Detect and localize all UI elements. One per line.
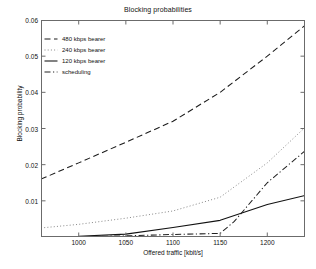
- legend-item-label: 240 kbps bearer: [62, 47, 105, 53]
- figure-blocking-probabilities: Blocking probabilities 0.010.020.030.040…: [0, 0, 316, 269]
- legend-item-label: scheduling: [62, 69, 91, 75]
- chart-legend: 480 kbps bearer240 kbps bearer120 kbps b…: [44, 33, 142, 83]
- y-tick-label: 0.03: [25, 125, 38, 132]
- legend-item-240-kbps-bearer[interactable]: 240 kbps bearer: [44, 44, 142, 55]
- legend-line-sample-icon: [44, 34, 58, 44]
- x-tick-label: 1150: [213, 239, 227, 246]
- x-tick-label: 1050: [119, 239, 133, 246]
- y-axis-label: Blocking probability: [16, 54, 23, 174]
- legend-item-480-kbps-bearer[interactable]: 480 kbps bearer: [44, 33, 142, 44]
- legend-item-scheduling[interactable]: scheduling: [44, 66, 142, 77]
- chart-title: Blocking probabilities: [0, 6, 316, 13]
- legend-line-sample-icon: [44, 45, 58, 55]
- x-axis-label: Offered traffic [kbit/s]: [41, 249, 305, 256]
- x-tick-label: 1000: [71, 239, 85, 246]
- y-tick-label: 0.06: [25, 17, 38, 24]
- y-tick-label: 0.04: [25, 89, 38, 96]
- legend-line-sample-icon: [44, 67, 58, 77]
- legend-line-sample-icon: [44, 56, 58, 66]
- series-line-240-kbps-bearer: [41, 127, 305, 228]
- series-line-scheduling: [41, 151, 305, 237]
- y-tick-label: 0.01: [25, 197, 38, 204]
- series-line-120-kbps-bearer: [41, 195, 305, 237]
- x-tick-label: 1100: [166, 239, 180, 246]
- legend-item-label: 480 kbps bearer: [62, 36, 105, 42]
- y-tick-label: 0.02: [25, 161, 38, 168]
- legend-item-label: 120 kbps bearer: [62, 58, 105, 64]
- legend-item-120-kbps-bearer[interactable]: 120 kbps bearer: [44, 55, 142, 66]
- x-tick-label: 1200: [260, 239, 274, 246]
- y-tick-label: 0.05: [25, 53, 38, 60]
